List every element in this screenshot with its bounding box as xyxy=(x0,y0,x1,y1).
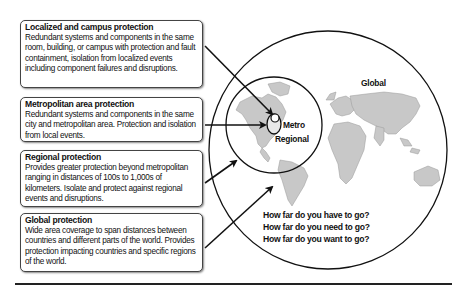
box-description: Provides greater protection beyond metro… xyxy=(25,163,199,205)
question-line: How far do you want to go? xyxy=(263,233,370,245)
horizontal-divider xyxy=(15,283,452,285)
world-map xyxy=(236,82,440,206)
global-label: Global xyxy=(361,78,386,88)
metro-label: Metro xyxy=(283,120,305,130)
localized-protection-box: Localized and campus protection Redundan… xyxy=(20,20,203,88)
box-description: Redundant systems and components in the … xyxy=(25,33,199,75)
box-title: Global protection xyxy=(25,215,199,226)
regional-protection-box: Regional protection Provides greater pro… xyxy=(20,150,203,207)
box-title: Localized and campus protection xyxy=(25,22,199,33)
questions-block: How far do you have to go? How far do yo… xyxy=(263,209,370,245)
question-line: How far do you need to go? xyxy=(263,221,370,233)
regional-label: Regional xyxy=(275,134,309,144)
box-title: Metropolitan area protection xyxy=(25,99,199,110)
question-line: How far do you have to go? xyxy=(263,209,370,221)
box-title: Regional protection xyxy=(25,152,199,163)
box-description: Wide area coverage to span distances bet… xyxy=(25,226,199,268)
box-description: Redundant systems and components in the … xyxy=(25,110,199,142)
global-protection-box: Global protection Wide area coverage to … xyxy=(20,213,203,272)
campus-circle xyxy=(271,114,279,122)
arrow-localized xyxy=(205,46,272,114)
arrow-global xyxy=(205,187,272,248)
metropolitan-protection-box: Metropolitan area protection Redundant s… xyxy=(20,97,203,142)
